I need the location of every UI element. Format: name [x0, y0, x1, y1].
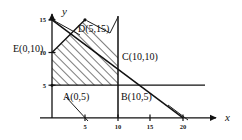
coordinate-plane-figure: 5 10 15 20 5 10 15 y x D(5,15) E(0,10) C… [0, 0, 242, 140]
x-tick-label-5: 5 [83, 123, 87, 130]
point-label-a: A(0,5) [63, 91, 89, 103]
y-tick-label-15: 15 [40, 16, 47, 23]
vertex-dot-d [83, 18, 86, 21]
figure-container: 5 10 15 20 5 10 15 y x D(5,15) E(0,10) C… [0, 0, 242, 140]
x-axis-label: x [224, 111, 230, 123]
point-label-c: C(10,10) [122, 51, 158, 63]
x-tick-label-15: 15 [147, 123, 154, 130]
x-tick-label-20: 20 [180, 123, 187, 130]
y-tick-label-5: 5 [43, 82, 47, 89]
leader-line-d-upper [52, 20, 80, 36]
leader-line-d-right [110, 17, 118, 33]
point-label-d: D(5,15) [78, 23, 109, 35]
y-axis-label: y [61, 5, 67, 17]
vertex-dot-a [51, 84, 54, 87]
point-label-e: E(0,10) [13, 43, 43, 55]
x-tick-label-10: 10 [115, 123, 122, 130]
point-label-b: B(10,5) [121, 91, 152, 103]
